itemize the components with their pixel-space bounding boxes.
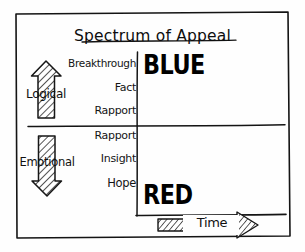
page-title: Spectrum of Appeal bbox=[0, 27, 305, 45]
tier-label-breakthrough: Breakthrough bbox=[46, 57, 136, 69]
quadrant-label-blue: BLUE bbox=[143, 50, 205, 80]
axis-label-time: Time bbox=[186, 215, 238, 230]
mid-divider-line bbox=[28, 125, 285, 127]
tier-label-rapport-emotional: Rapport bbox=[46, 129, 136, 142]
axis-label-emotional: Emotional bbox=[5, 155, 89, 169]
tier-label-hope: Hope bbox=[46, 176, 136, 190]
axis-label-logical: Logical bbox=[13, 87, 79, 101]
tier-label-rapport-logical: Rapport bbox=[46, 104, 136, 117]
quadrant-label-red: RED bbox=[143, 180, 193, 210]
y-axis-line bbox=[137, 52, 138, 216]
sketch-diagram: Spectrum of Appeal Breakthrough Fact Rap… bbox=[0, 0, 305, 252]
